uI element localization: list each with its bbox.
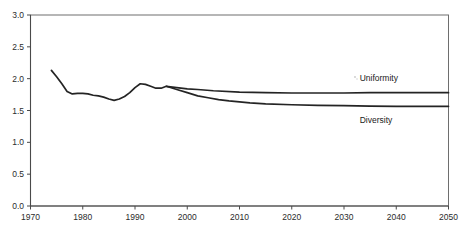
y-tick-label: 1.5 — [12, 106, 24, 116]
uniformity-label: Uniformity — [360, 73, 399, 83]
scan-speck — [354, 76, 356, 78]
chart-container: 0.00.51.01.52.02.53.0 197019801990200020… — [0, 0, 463, 232]
plot-area-frame — [31, 15, 449, 206]
x-tick-label: 2030 — [335, 212, 354, 222]
x-tick-label: 2010 — [230, 212, 249, 222]
x-tick-label: 2040 — [387, 212, 406, 222]
line-chart: 0.00.51.01.52.02.53.0 197019801990200020… — [0, 0, 463, 232]
y-axis-ticks: 0.00.51.01.52.02.53.0 — [12, 10, 30, 211]
x-tick-label: 2000 — [178, 212, 197, 222]
x-axis-ticks: 197019801990200020102020203020402050 — [21, 206, 458, 222]
y-tick-label: 2.5 — [12, 42, 24, 52]
x-tick-label: 1970 — [21, 212, 40, 222]
x-tick-label: 2020 — [282, 212, 301, 222]
scan-speck — [356, 78, 357, 79]
x-tick-label: 1990 — [126, 212, 145, 222]
series-line-diversity — [166, 86, 448, 106]
scan-artifacts — [354, 76, 358, 80]
y-tick-label: 1.0 — [12, 137, 24, 147]
x-tick-label: 1980 — [73, 212, 92, 222]
diversity-label: Diversity — [360, 115, 393, 125]
y-tick-label: 3.0 — [12, 10, 24, 20]
y-tick-label: 0.5 — [12, 169, 24, 179]
x-tick-label: 2050 — [439, 212, 458, 222]
series-annotations: UniformityDiversity — [360, 73, 399, 125]
y-tick-label: 2.0 — [12, 74, 24, 84]
y-tick-label: 0.0 — [12, 201, 24, 211]
